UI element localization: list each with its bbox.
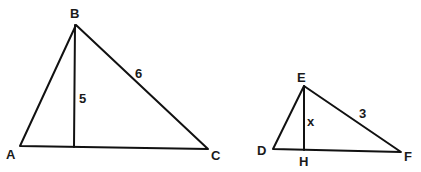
similar-triangles-diagram: A B C 5 6 E D H F x 3 [0,0,421,172]
vertex-label-d: D [257,143,266,158]
altitude-length-label: 5 [79,91,86,106]
side-ef-length-label: 3 [359,106,366,121]
altitude-x-label: x [307,114,315,129]
triangle-abc-outline [20,25,208,149]
vertex-label-b: B [70,6,79,21]
side-bc-length-label: 6 [135,66,142,81]
vertex-label-a: A [6,147,16,162]
foot-label-h: H [299,154,308,169]
vertex-label-c: C [211,148,221,163]
vertex-label-e: E [297,70,306,85]
vertex-label-f: F [404,149,412,164]
triangle-def: E D H F x 3 [257,70,412,169]
triangle-def-outline [273,86,401,152]
altitude-from-b [74,25,75,147]
triangle-abc: A B C 5 6 [6,6,221,163]
